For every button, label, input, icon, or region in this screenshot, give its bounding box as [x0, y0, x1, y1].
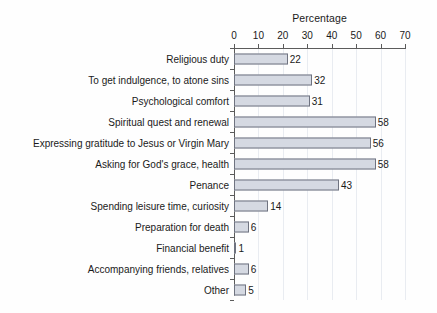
- category-label: Psychological comfort: [132, 95, 229, 106]
- bar-value-label: 31: [312, 95, 323, 106]
- category-label: Preparation for death: [135, 221, 229, 232]
- bar: [234, 137, 371, 148]
- bar-value-label: 5: [248, 284, 254, 295]
- category-label: Spending leisure time, curiosity: [91, 200, 229, 211]
- bar-value-label: 14: [270, 200, 281, 211]
- category-label: Religious duty: [166, 53, 229, 64]
- chart-row: Spiritual quest and renewal58: [234, 111, 405, 132]
- bar: [234, 284, 246, 295]
- y-tick: [230, 90, 234, 91]
- chart-row: Accompanying friends, relatives6: [234, 258, 405, 279]
- bar: [234, 200, 268, 211]
- bar: [234, 179, 339, 190]
- y-tick: [230, 300, 234, 301]
- category-label: Expressing gratitude to Jesus or Virgin …: [33, 137, 229, 148]
- bar-value-label: 32: [314, 74, 325, 85]
- x-tick-label-10: 10: [253, 30, 264, 41]
- y-tick: [230, 258, 234, 259]
- chart-row: Religious duty22: [234, 48, 405, 69]
- y-tick: [230, 132, 234, 133]
- bar-value-label: 22: [290, 53, 301, 64]
- category-label: Penance: [190, 179, 229, 190]
- bar-value-label: 58: [378, 116, 389, 127]
- y-tick: [230, 48, 234, 49]
- chart-row: Expressing gratitude to Jesus or Virgin …: [234, 132, 405, 153]
- category-label: Spiritual quest and renewal: [108, 116, 229, 127]
- chart-row: Other5: [234, 279, 405, 300]
- bar: [234, 221, 249, 232]
- bar: [234, 158, 376, 169]
- y-tick: [230, 111, 234, 112]
- x-tick-label-20: 20: [277, 30, 288, 41]
- bar: [234, 263, 249, 274]
- category-label: Accompanying friends, relatives: [88, 263, 229, 274]
- chart-row: Asking for God's grace, health58: [234, 153, 405, 174]
- x-tick-70: [405, 44, 406, 48]
- bar-value-label: 6: [251, 263, 257, 274]
- chart-row: To get indulgence, to atone sins32: [234, 69, 405, 90]
- y-tick: [230, 279, 234, 280]
- gridline: [405, 48, 406, 300]
- y-tick: [230, 69, 234, 70]
- category-label: Financial benefit: [156, 242, 229, 253]
- y-tick: [230, 153, 234, 154]
- x-tick-label-60: 60: [375, 30, 386, 41]
- bar-value-label: 58: [378, 158, 389, 169]
- x-tick-label-50: 50: [351, 30, 362, 41]
- y-tick: [230, 237, 234, 238]
- x-tick-label-70: 70: [399, 30, 410, 41]
- chart-row: Psychological comfort31: [234, 90, 405, 111]
- chart-row: Preparation for death6: [234, 216, 405, 237]
- category-label: To get indulgence, to atone sins: [88, 74, 229, 85]
- category-label: Other: [204, 284, 229, 295]
- chart-row: Penance43: [234, 174, 405, 195]
- chart-title: Percentage: [234, 12, 405, 24]
- x-tick-label-40: 40: [326, 30, 337, 41]
- x-tick-label-30: 30: [302, 30, 313, 41]
- bar-chart: Percentage 010203040506070 Religious dut…: [0, 0, 437, 313]
- bar-value-label: 43: [341, 179, 352, 190]
- chart-row: Spending leisure time, curiosity14: [234, 195, 405, 216]
- bar: [234, 116, 376, 127]
- y-tick: [230, 174, 234, 175]
- bar-value-label: 1: [238, 242, 244, 253]
- category-label: Asking for God's grace, health: [95, 158, 229, 169]
- bar: [234, 242, 236, 253]
- x-tick-label-0: 0: [231, 30, 237, 41]
- bar-value-label: 56: [373, 137, 384, 148]
- y-tick: [230, 216, 234, 217]
- plot-area: Religious duty22To get indulgence, to at…: [234, 48, 405, 300]
- bar: [234, 74, 312, 85]
- chart-row: Financial benefit1: [234, 237, 405, 258]
- bar: [234, 95, 310, 106]
- y-tick: [230, 195, 234, 196]
- bar-value-label: 6: [251, 221, 257, 232]
- bar: [234, 53, 288, 64]
